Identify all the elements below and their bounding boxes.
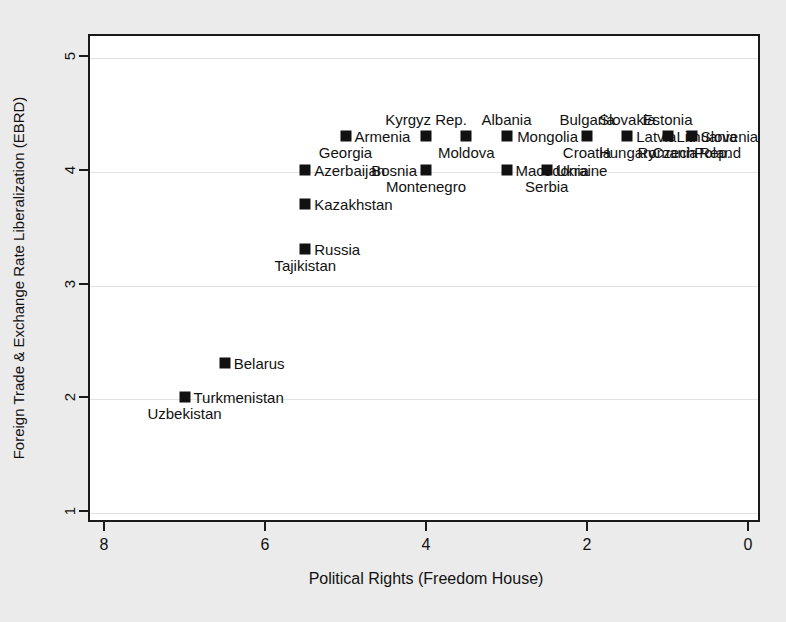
- data-point-marker: [300, 244, 311, 255]
- x-tick-label: 4: [422, 536, 431, 554]
- x-tick-label: 0: [744, 536, 753, 554]
- y-tick-label: 5: [66, 48, 74, 65]
- data-point-marker: [340, 130, 351, 141]
- data-point-label: Slovenia: [701, 128, 759, 143]
- data-point-marker: [300, 164, 311, 175]
- data-point-label: Latvia: [636, 128, 676, 143]
- data-point-label: Albania: [481, 112, 531, 127]
- y-tick-label: 4: [66, 161, 74, 178]
- y-tick-mark: [79, 169, 88, 171]
- gridline: [90, 399, 758, 400]
- data-point-label: Kyrgyz Rep.: [385, 112, 467, 127]
- data-point-marker: [300, 198, 311, 209]
- data-point-label: Poland: [694, 145, 741, 160]
- data-point-marker: [421, 130, 432, 141]
- gridline: [90, 513, 758, 514]
- data-point-marker: [179, 392, 190, 403]
- x-tick-label: 2: [583, 536, 592, 554]
- x-tick-label: 8: [100, 536, 109, 554]
- x-tick-mark: [747, 522, 749, 531]
- y-tick-label: 3: [66, 275, 74, 292]
- data-point-label: Serbia: [525, 179, 568, 194]
- plot-area: [88, 34, 760, 522]
- data-point-label: Belarus: [234, 356, 285, 371]
- x-tick-mark: [586, 522, 588, 531]
- x-tick-mark: [103, 522, 105, 531]
- data-point-label: Ukraine: [556, 162, 608, 177]
- data-point-label: Montenegro: [386, 179, 466, 194]
- data-point-label: Mongolia: [517, 128, 578, 143]
- data-point-marker: [622, 130, 633, 141]
- gridline: [90, 58, 758, 59]
- x-tick-mark: [425, 522, 427, 531]
- gridline: [90, 286, 758, 287]
- y-tick-mark: [79, 283, 88, 285]
- x-tick-mark: [264, 522, 266, 531]
- data-point-marker: [582, 130, 593, 141]
- y-tick-mark: [79, 510, 88, 512]
- data-point-label: Turkmenistan: [194, 390, 284, 405]
- y-tick-label: 2: [66, 389, 74, 406]
- x-axis-label: Political Rights (Freedom House): [309, 570, 544, 588]
- data-point-label: Bosnia: [371, 162, 417, 177]
- data-point-label: Uzbekistan: [147, 406, 221, 421]
- data-point-label: Georgia: [319, 145, 372, 160]
- data-point-label: Russia: [314, 242, 360, 257]
- y-tick-mark: [79, 55, 88, 57]
- x-tick-label: 6: [261, 536, 270, 554]
- data-point-label: Kazakhstan: [314, 196, 392, 211]
- data-point-marker: [219, 358, 230, 369]
- y-axis-label: Foreign Trade & Exchange Rate Liberaliza…: [10, 97, 27, 460]
- data-point-marker: [501, 130, 512, 141]
- data-point-label: Moldova: [438, 145, 495, 160]
- y-tick-mark: [79, 396, 88, 398]
- data-point-label: Armenia: [355, 128, 411, 143]
- data-point-marker: [461, 130, 472, 141]
- data-point-marker: [501, 164, 512, 175]
- scatter-plot-figure: Foreign Trade & Exchange Rate Liberaliza…: [0, 0, 786, 622]
- y-tick-label: 1: [66, 503, 74, 520]
- data-point-marker: [421, 164, 432, 175]
- data-point-label: Estonia: [642, 112, 692, 127]
- data-point-label: Tajikistan: [274, 258, 336, 273]
